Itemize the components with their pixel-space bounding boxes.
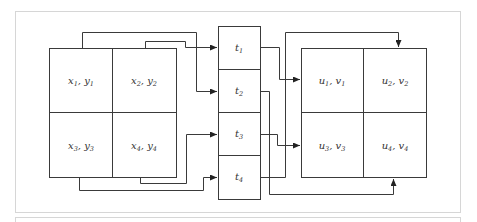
arrow-t3-to-u3 <box>261 135 301 146</box>
cell-u3-v3: u3, v3 <box>319 140 346 153</box>
arrow-t2-to-u4 <box>261 92 394 195</box>
arrow-t4-to-u2 <box>261 33 399 178</box>
cell-x4-y4: x4, y4 <box>131 140 157 153</box>
cell-u2-v2: u2, v2 <box>382 75 409 88</box>
arrow-t1-to-u1 <box>261 48 301 80</box>
arrow-x2-to-t1 <box>146 42 218 49</box>
cell-u1-v1: u1, v1 <box>319 75 346 88</box>
cell-x2-y2: x2, y2 <box>131 75 157 88</box>
cell-u4-v4: u4, v4 <box>382 140 409 153</box>
cell-t3: t3 <box>235 128 243 141</box>
cell-t4: t4 <box>235 171 243 184</box>
cell-x1-y1: x1, y1 <box>68 75 94 88</box>
cell-t1: t1 <box>235 42 243 55</box>
cell-x3-y3: x3, y3 <box>68 140 94 153</box>
cell-t2: t2 <box>235 85 243 98</box>
mapping-diagram: x1, y1 x2, y2 x3, y3 x4, y4 t1 t2 t3 t4 … <box>0 0 477 222</box>
